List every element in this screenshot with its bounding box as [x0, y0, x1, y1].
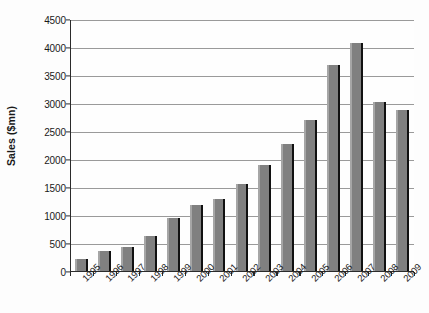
bar-2009	[396, 110, 409, 271]
bar-slot	[277, 20, 300, 271]
y-axis-tick-label: 2000	[22, 155, 66, 166]
bar-highlight	[75, 259, 77, 271]
bar-slot	[209, 20, 232, 271]
y-axis-tick-label: 3500	[22, 71, 66, 82]
bar-slot	[392, 20, 415, 271]
bar-2000	[190, 205, 203, 271]
bar-2008	[373, 102, 386, 271]
bar-slot	[369, 20, 392, 271]
x-axis-tick-labels: 1995199619971998199920002001200220032004…	[70, 276, 414, 313]
bar-slot	[186, 20, 209, 271]
bar-slot	[94, 20, 117, 271]
bar-highlight	[258, 165, 260, 271]
y-axis-tick-label: 3000	[22, 99, 66, 110]
y-axis-tick-label: 1000	[22, 211, 66, 222]
y-axis-tick-label: 500	[22, 239, 66, 250]
bar-2005	[304, 120, 317, 271]
bar-highlight	[304, 120, 306, 271]
y-axis-tick-label: 0	[22, 267, 66, 278]
y-axis-tick-label: 1500	[22, 183, 66, 194]
bar-slot	[346, 20, 369, 271]
y-axis-title-label: Sales ($mn)	[5, 106, 17, 166]
y-axis-tick-label: 2500	[22, 127, 66, 138]
bar-highlight	[190, 205, 192, 271]
bar-slot	[71, 20, 94, 271]
plot-area	[70, 20, 414, 272]
bar-2006	[327, 65, 340, 271]
bar-highlight	[396, 110, 398, 271]
bar-highlight	[327, 65, 329, 271]
bar-2007	[350, 43, 363, 271]
bar-highlight	[373, 102, 375, 271]
bar-1999	[167, 218, 180, 271]
bar-slot	[163, 20, 186, 271]
bar-slot	[117, 20, 140, 271]
bar-slot	[254, 20, 277, 271]
bar-slot	[140, 20, 163, 271]
y-axis-tick-labels: 050010001500200025003000350040004500	[18, 20, 66, 272]
bar-highlight	[213, 199, 215, 271]
bar-2002	[236, 184, 249, 271]
bar-slot	[232, 20, 255, 271]
bar-highlight	[281, 144, 283, 271]
bar-highlight	[350, 43, 352, 271]
bar-highlight	[167, 218, 169, 271]
bar-chart: Sales ($mn) 0500100015002000250030003500…	[0, 0, 429, 313]
y-axis-tick-label: 4000	[22, 43, 66, 54]
bar-slot	[323, 20, 346, 271]
bar-1998	[144, 236, 157, 271]
bar-2004	[281, 144, 294, 271]
bar-2001	[213, 199, 226, 271]
y-axis-tick-label: 4500	[22, 15, 66, 26]
bar-slot	[300, 20, 323, 271]
bar-highlight	[236, 184, 238, 271]
bar-2003	[258, 165, 271, 271]
